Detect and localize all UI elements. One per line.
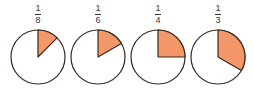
numerator: 1 bbox=[35, 4, 40, 13]
fraction-circle-1-8: 18 bbox=[8, 0, 68, 90]
denominator: 6 bbox=[95, 16, 100, 25]
denominator: 4 bbox=[155, 16, 160, 25]
pie-circle bbox=[189, 28, 247, 86]
numerator: 1 bbox=[155, 4, 160, 13]
fraction-label: 13 bbox=[188, 4, 248, 25]
fraction-label: 14 bbox=[128, 4, 188, 25]
fraction-circle-1-6: 16 bbox=[68, 0, 128, 90]
numerator: 1 bbox=[215, 4, 220, 13]
pie-circle bbox=[9, 28, 67, 86]
denominator: 3 bbox=[215, 16, 220, 25]
numerator: 1 bbox=[95, 4, 100, 13]
pie-circle bbox=[129, 28, 187, 86]
fraction-label: 16 bbox=[68, 4, 128, 25]
denominator: 8 bbox=[35, 16, 40, 25]
fraction-circle-1-3: 13 bbox=[188, 0, 248, 90]
fraction-circle-1-4: 14 bbox=[128, 0, 188, 90]
pie-circle bbox=[69, 28, 127, 86]
shaded-sector bbox=[158, 30, 185, 57]
fraction-label: 18 bbox=[8, 4, 68, 25]
